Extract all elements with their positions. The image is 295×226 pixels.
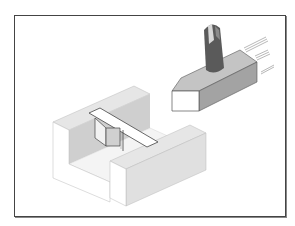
shank-icon (204, 24, 224, 72)
cutting-tool (172, 24, 257, 111)
tool-front-face (172, 91, 199, 111)
diagram-canvas (0, 0, 295, 226)
